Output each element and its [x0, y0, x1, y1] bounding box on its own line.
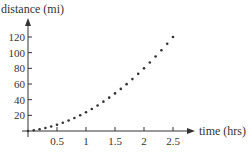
- y-axis: [25, 18, 31, 137]
- data-point: [91, 108, 94, 111]
- data-point: [56, 123, 59, 126]
- data-point: [166, 42, 169, 45]
- x-tick-label: 2: [141, 135, 147, 147]
- data-point: [33, 129, 36, 132]
- data-point: [102, 100, 105, 103]
- y-axis-title: distance (mi): [1, 2, 64, 16]
- data-points: [27, 36, 175, 133]
- x-ticks: 0.511.522.5: [50, 127, 180, 147]
- data-point: [120, 88, 123, 91]
- data-point: [79, 114, 82, 117]
- data-point: [143, 67, 146, 70]
- distance-time-chart: distance (mi) time (hrs) 0.511.522.5 204…: [0, 0, 252, 155]
- x-axis-title: time (hrs): [199, 124, 246, 138]
- data-point: [149, 61, 152, 64]
- x-tick-label: 1: [83, 135, 89, 147]
- y-tick-label: 20: [14, 109, 26, 121]
- data-point: [160, 49, 163, 52]
- data-point: [131, 78, 134, 81]
- data-point: [85, 111, 88, 114]
- data-point: [172, 36, 175, 39]
- data-point: [137, 73, 140, 76]
- data-point: [44, 127, 47, 130]
- x-tick-label: 0.5: [50, 135, 64, 147]
- y-tick-label: 60: [14, 78, 26, 90]
- data-point: [154, 55, 157, 58]
- y-tick-label: 40: [14, 94, 26, 106]
- data-point: [38, 128, 41, 131]
- y-axis-arrow-icon: [25, 18, 31, 26]
- data-point: [96, 104, 99, 107]
- x-axis-arrow-icon: [187, 128, 195, 134]
- x-axis: [22, 128, 195, 134]
- y-tick-label: 100: [9, 47, 26, 59]
- data-point: [125, 83, 128, 86]
- y-tick-label: 120: [9, 31, 26, 43]
- x-tick-label: 1.5: [108, 135, 122, 147]
- data-point: [67, 119, 70, 122]
- data-point: [114, 92, 117, 95]
- x-tick-label: 2.5: [166, 135, 180, 147]
- data-point: [27, 130, 30, 133]
- data-point: [50, 125, 53, 128]
- data-point: [108, 96, 111, 99]
- data-point: [62, 121, 65, 124]
- data-point: [73, 117, 76, 120]
- y-tick-label: 80: [14, 62, 26, 74]
